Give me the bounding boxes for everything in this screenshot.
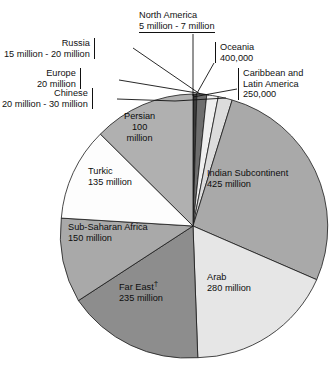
label-indian-subcontinent-value: 425 million [207, 179, 288, 190]
label-far-east-text: Far East [119, 282, 154, 292]
callout-oceania-value: 400,000 [220, 53, 254, 64]
label-far-east-value: 235 million [119, 293, 163, 304]
callout-oceania-name: Oceania [220, 42, 254, 53]
callout-russia-value: 15 million - 20 million [4, 49, 90, 60]
label-far-east[interactable]: Far East† 235 million [119, 278, 163, 304]
label-far-east-name: Far East† [119, 278, 163, 293]
callout-russia[interactable]: Russia 15 million - 20 million [4, 38, 95, 59]
callout-russia-name: Russia [4, 38, 90, 49]
callout-europe-name: Europe [37, 68, 76, 79]
footnote-dagger-icon: † [154, 279, 158, 288]
leader-line-oceania [196, 63, 214, 95]
callout-europe[interactable]: Europe 20 million [37, 68, 81, 89]
label-persian-name: Persian [124, 111, 155, 122]
label-arab[interactable]: Arab 280 million [207, 272, 251, 294]
label-sub-saharan-africa[interactable]: Sub-Saharan Africa 150 million [68, 222, 148, 244]
callout-caribbean-line2: Latin America [243, 79, 303, 90]
label-arab-value: 280 million [207, 283, 251, 294]
leader-line-europe [119, 80, 209, 95]
label-turkic-value: 135 million [88, 177, 132, 188]
callout-caribbean-line1: Caribbean and [243, 68, 303, 79]
label-arab-name: Arab [207, 272, 251, 283]
label-turkic[interactable]: Turkic 135 million [88, 166, 132, 188]
callout-north-america-name: North America [139, 10, 215, 21]
label-persian[interactable]: Persian 100 million [124, 111, 155, 144]
callout-caribbean-value: 250,000 [243, 89, 303, 100]
pie-chart: Russia 15 million - 20 million Europe 20… [0, 0, 334, 373]
callout-chinese[interactable]: Chinese 20 million - 30 million [2, 88, 93, 109]
label-sub-saharan-africa-name: Sub-Saharan Africa [68, 222, 148, 233]
callout-north-america-value: 5 million - 7 million [139, 21, 215, 32]
callout-chinese-value: 20 million - 30 million [2, 99, 88, 110]
label-indian-subcontinent-name: Indian Subcontinent [207, 168, 288, 179]
label-indian-subcontinent[interactable]: Indian Subcontinent 425 million [207, 168, 288, 190]
label-turkic-name: Turkic [88, 166, 132, 177]
label-sub-saharan-africa-value: 150 million [68, 233, 148, 244]
callout-oceania[interactable]: Oceania 400,000 [215, 42, 254, 63]
leader-line-russia [133, 48, 200, 94]
callout-north-america[interactable]: North America 5 million - 7 million [139, 10, 215, 33]
callout-chinese-name: Chinese [2, 88, 88, 99]
label-persian-units: million [124, 133, 155, 144]
label-persian-value: 100 [124, 122, 155, 133]
callout-caribbean-and-latin-america[interactable]: Caribbean and Latin America 250,000 [238, 68, 303, 100]
